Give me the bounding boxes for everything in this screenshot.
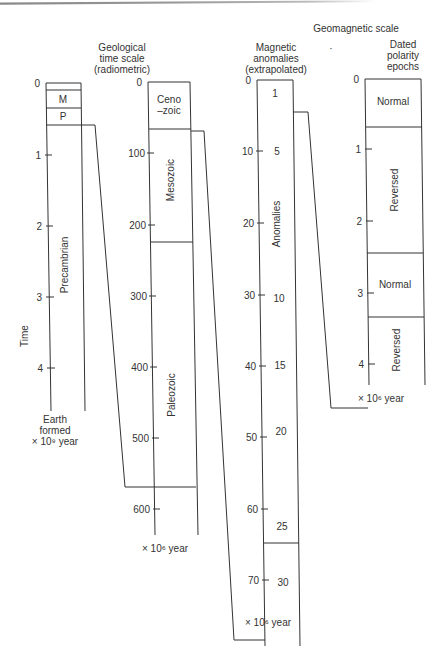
heading: polarity — [387, 50, 419, 61]
unit-label: × 10⁶ year — [245, 617, 292, 628]
tick-label: 0 — [34, 78, 40, 89]
heading: Dated — [390, 39, 417, 50]
tick-label: 20 — [243, 218, 255, 229]
tick-label: 0 — [353, 74, 359, 85]
tick-label: 400 — [131, 362, 148, 373]
tick-label: 2 — [356, 216, 362, 227]
anomaly-number: 1 — [272, 88, 278, 99]
tick-label: 3 — [357, 288, 363, 299]
segment-precambrian: Precambrian — [59, 237, 70, 294]
tick-label: 40 — [245, 361, 257, 372]
anomaly-number: 15 — [274, 360, 286, 371]
segment-reversed: Reversed — [391, 329, 402, 372]
unit-line1: Earth — [43, 414, 67, 425]
segment-reversed: Reversed — [389, 169, 400, 212]
tick-label: 0 — [245, 75, 251, 86]
anomaly-number: 20 — [275, 426, 287, 437]
tick-label: 60 — [247, 504, 259, 515]
heading: time scale — [99, 53, 144, 64]
tick-label: 2 — [36, 221, 42, 232]
anomaly-number: 25 — [276, 521, 288, 532]
tick-label: 200 — [129, 220, 146, 231]
polarity-panel: Dated polarity epochs Normal Reversed No… — [353, 39, 425, 404]
anomaly-number: 10 — [273, 293, 285, 304]
tick-label: 4 — [37, 363, 43, 374]
segment-cenozoic-2: –zoic — [157, 105, 180, 116]
segment-normal: Normal — [379, 279, 411, 290]
geological-panel: Geological time scale (radiometric) Ceno… — [94, 42, 265, 640]
tick-label: 500 — [132, 433, 149, 444]
tick-label: 1 — [355, 144, 361, 155]
tick-label: 600 — [133, 504, 150, 515]
anomaly-number: 5 — [274, 146, 280, 157]
tick-label: 1 — [35, 150, 41, 161]
segment-m: M — [59, 94, 67, 105]
axis-label-time: Time — [19, 325, 30, 347]
tick-label: 0 — [136, 77, 142, 88]
tick-label: 10 — [242, 146, 254, 157]
segment-mesozoic: Mesozoic — [165, 159, 176, 201]
heading: Geological — [98, 42, 145, 53]
heading: Magnetic — [256, 42, 297, 53]
unit-line2: formed — [39, 425, 70, 436]
tick-label: 50 — [246, 432, 258, 443]
unit-line3: × 10⁹ year — [32, 436, 79, 447]
segment-p: P — [60, 111, 67, 122]
unit-label: × 10⁶ year — [358, 393, 405, 404]
tick-label: 4 — [358, 359, 364, 370]
anomalies-label: Anomalies — [271, 201, 282, 248]
geologic-time-diagram: Geomagnetic scale · M P Precambrian 0 1 … — [0, 0, 442, 664]
diagram-title: Geomagnetic scale — [313, 23, 399, 34]
heading: (extrapolated) — [245, 64, 307, 75]
dot-mark: · — [329, 43, 332, 54]
unit-label: × 10⁶ year — [142, 543, 189, 554]
heading: (radiometric) — [94, 64, 150, 75]
segment-cenozoic: Ceno — [157, 94, 181, 105]
heading: anomalies — [253, 53, 299, 64]
tick-label: 30 — [244, 290, 256, 301]
magnetic-panel: Magnetic anomalies (extrapolated) 1 5 10… — [242, 42, 368, 646]
earth-panel: M P Precambrian 0 1 2 3 4 Time Earth for… — [19, 78, 196, 487]
tick-label: 100 — [128, 148, 145, 159]
tick-label: 300 — [130, 291, 147, 302]
segment-normal: Normal — [377, 96, 409, 107]
heading: epochs — [387, 61, 419, 72]
segment-paleozoic: Paleozoic — [166, 373, 177, 416]
anomaly-number: 30 — [277, 577, 289, 588]
tick-label: 70 — [248, 575, 260, 586]
tick-label: 3 — [36, 292, 42, 303]
